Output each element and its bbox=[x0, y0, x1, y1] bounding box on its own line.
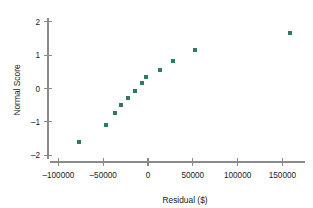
data-point-marker bbox=[193, 48, 197, 52]
x-axis: –100000–50000050000100000150000 bbox=[42, 158, 305, 180]
data-point-series bbox=[77, 31, 292, 145]
x-axis-tick-labels: –100000–50000050000100000150000 bbox=[42, 171, 296, 180]
x-tick-label: 50000 bbox=[181, 171, 204, 180]
y-axis: –2–1012 bbox=[31, 18, 52, 160]
x-tick-label: 150000 bbox=[269, 171, 297, 180]
data-point-marker bbox=[158, 68, 162, 72]
data-point-marker bbox=[126, 96, 130, 100]
x-tick-label: –100000 bbox=[42, 171, 74, 180]
data-point-marker bbox=[104, 123, 108, 127]
y-tick-label: 2 bbox=[35, 18, 40, 27]
x-tick-label: –50000 bbox=[90, 171, 118, 180]
data-point-marker bbox=[140, 81, 144, 85]
y-tick-label: 1 bbox=[35, 51, 40, 60]
data-point-marker bbox=[144, 75, 148, 79]
y-tick-label: –2 bbox=[31, 151, 41, 160]
data-point-marker bbox=[288, 31, 292, 35]
scatter-plot-canvas: –2–1012 –100000–50000050000100000150000 … bbox=[0, 0, 313, 208]
data-point-marker bbox=[113, 111, 117, 115]
x-tick-label: 100000 bbox=[224, 171, 252, 180]
y-axis-tick-labels: –2–1012 bbox=[31, 18, 41, 160]
data-point-marker bbox=[133, 89, 137, 93]
data-point-marker bbox=[77, 140, 81, 144]
data-point-marker bbox=[119, 103, 123, 107]
x-tick-label: 0 bbox=[146, 171, 151, 180]
x-axis-title: Residual ($) bbox=[162, 195, 207, 205]
data-point-marker bbox=[171, 59, 175, 63]
y-axis-title: Normal Score bbox=[12, 64, 22, 116]
y-tick-label: –1 bbox=[31, 118, 41, 127]
normal-probability-plot-figure: –2–1012 –100000–50000050000100000150000 … bbox=[0, 0, 313, 208]
y-tick-label: 0 bbox=[35, 85, 40, 94]
